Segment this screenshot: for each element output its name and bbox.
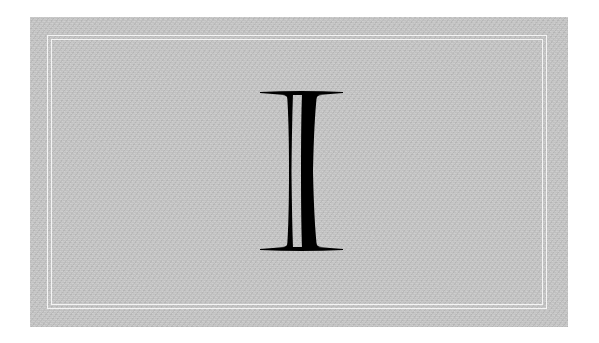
letter-i-glyph: I (260, 91, 343, 251)
page: I (0, 0, 599, 343)
double-struck-i-icon (260, 91, 343, 251)
textured-card: I (30, 17, 568, 327)
